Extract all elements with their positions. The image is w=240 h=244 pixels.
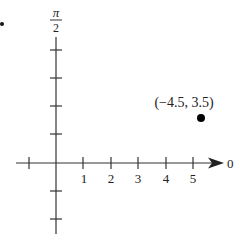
svg-text:3: 3 [135,171,142,186]
svg-text:2: 2 [53,21,59,35]
x-tick-labels: 1 2 3 4 5 [81,171,197,186]
svg-text:π: π [53,5,60,20]
polar-axis-zero-label: 0 [227,156,234,171]
plotted-point [197,114,205,122]
pi-over-2-label: π 2 [50,5,62,35]
svg-text:5: 5 [190,171,197,186]
svg-text:1: 1 [81,171,88,186]
point-label: (−4.5, 3.5) [154,95,214,111]
svg-text:2: 2 [108,171,115,186]
svg-text:4: 4 [163,171,170,186]
polar-plot: π 2 0 1 2 3 4 5 (−4.5, 3.5) [0,0,240,244]
artifact-dot [0,22,4,26]
